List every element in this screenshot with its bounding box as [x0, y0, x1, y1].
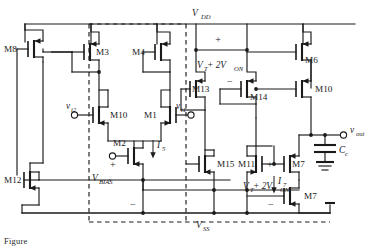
- figure-caption: Figure: [4, 236, 27, 246]
- minus-sign-bottom-left: −: [130, 199, 136, 210]
- svg-text:M1: M1: [144, 110, 157, 120]
- transistor-M14: M14 −: [220, 50, 268, 160]
- svg-text:+: +: [110, 159, 116, 170]
- wire-M3-M4-gates: [43, 49, 72, 52]
- svg-text:M15: M15: [217, 159, 235, 169]
- current-arrow-I5: I 5: [150, 140, 166, 159]
- transistor-M4: M4: [132, 24, 170, 106]
- capacitor-Cc: C c: [314, 135, 348, 170]
- transistor-M2: M1: [144, 90, 194, 141]
- circuit-schematic: V DD + V T + 2V ON: [0, 0, 370, 249]
- svg-text:5: 5: [162, 145, 166, 152]
- transistor-M10-label: M10: [313, 83, 337, 95]
- output-node: v out: [309, 125, 364, 138]
- svg-text:M11: M11: [238, 159, 255, 169]
- svg-text:−: −: [130, 199, 136, 210]
- input-terminal-vi1[interactable]: [188, 112, 194, 118]
- svg-text:V: V: [192, 8, 199, 18]
- transistor-M7-label: M7: [302, 190, 322, 202]
- svg-text:out: out: [356, 130, 365, 137]
- minus-sign-bottom-right: −: [268, 199, 274, 210]
- transistor-M6: M6: [247, 24, 318, 88]
- svg-text:M13: M13: [192, 84, 210, 94]
- svg-text:V: V: [92, 173, 99, 183]
- svg-text:M7: M7: [292, 159, 305, 169]
- wire-M8-to-M9: [30, 62, 43, 172]
- input-label-vi2: v i2: [66, 101, 77, 113]
- svg-text:−: −: [227, 76, 233, 87]
- transistor-M12: M15: [186, 150, 235, 190]
- svg-text:M14: M14: [250, 92, 268, 102]
- svg-text:DD: DD: [200, 13, 211, 20]
- output-terminal-vout[interactable]: [340, 132, 346, 138]
- svg-text:M7: M7: [304, 191, 317, 201]
- voltage-annotation-top: + V T + 2V ON: [196, 34, 247, 72]
- svg-text:M2: M2: [113, 138, 126, 148]
- svg-text:M6: M6: [305, 55, 318, 65]
- svg-text:M8: M8: [4, 44, 17, 54]
- vss-rail: [22, 178, 335, 215]
- svg-text:I: I: [277, 176, 282, 186]
- svg-text:M12: M12: [4, 175, 22, 185]
- svg-text:BIAS: BIAS: [99, 178, 113, 185]
- svg-text:M3: M3: [96, 47, 109, 57]
- svg-text:c: c: [345, 150, 348, 157]
- transistor-M11: M7 +: [267, 135, 311, 180]
- svg-text:M10: M10: [315, 84, 333, 94]
- svg-text:M10: M10: [110, 110, 128, 120]
- svg-text:+ 2V: + 2V: [207, 60, 227, 70]
- vbias-label: + V BIAS: [92, 159, 116, 185]
- svg-text:v: v: [350, 125, 355, 135]
- svg-text:+: +: [215, 34, 221, 45]
- transistor-M8: M8: [4, 24, 43, 175]
- transistor-M1: M10: [71, 90, 127, 141]
- vdd-rail: [25, 24, 355, 52]
- svg-text:ON: ON: [234, 65, 244, 72]
- svg-text:−: −: [268, 199, 274, 210]
- svg-text:V: V: [197, 60, 204, 70]
- vdd-label: V DD: [192, 8, 211, 20]
- dashed-block-bottom: [89, 24, 330, 222]
- svg-text:SS: SS: [203, 225, 210, 232]
- svg-text:+: +: [267, 159, 273, 170]
- schematic-canvas: V DD + V T + 2V ON: [0, 0, 370, 249]
- svg-text:i1: i1: [181, 106, 186, 113]
- svg-text:i2: i2: [71, 106, 77, 113]
- input-terminal-vi2[interactable]: [71, 112, 77, 118]
- svg-text:M4: M4: [132, 47, 145, 57]
